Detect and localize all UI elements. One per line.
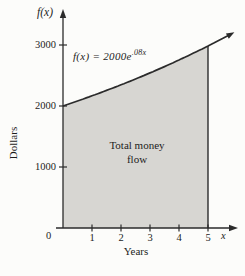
origin-label: 0 (46, 231, 51, 242)
y-axis-label: Dollars (8, 127, 19, 159)
region-label-line2: flow (87, 154, 187, 165)
y-axis-title: f(x) (37, 7, 53, 19)
shaded-region-label: Total money flow (87, 140, 187, 168)
y-axis-arrowhead (60, 9, 66, 18)
y-tick-label-1000: 1000 (24, 162, 56, 173)
function-formula: f(x) = 2000e.08x (73, 49, 146, 62)
region-label-line1: Total money (87, 140, 187, 151)
y-tick-label-3000: 3000 (24, 40, 56, 51)
curve-arrowhead (226, 32, 235, 39)
x-tick-label-3: 3 (140, 233, 160, 244)
shaded-area-total-money-flow (63, 46, 208, 228)
formula-base: f(x) = 2000e (73, 50, 132, 62)
x-axis-letter: x (221, 231, 226, 242)
x-axis-label: Years (105, 246, 167, 257)
y-tick-label-2000: 2000 (24, 101, 56, 112)
formula-exponent: .08x (132, 48, 147, 57)
x-tick-label-2: 2 (111, 233, 131, 244)
money-flow-chart: f(x) f(x) = 2000e.08x 3000 2000 1000 0 1… (0, 0, 245, 276)
x-axis-arrowhead (229, 225, 238, 231)
x-tick-label-4: 4 (169, 233, 189, 244)
x-tick-label-5: 5 (198, 233, 218, 244)
x-tick-label-1: 1 (82, 233, 102, 244)
